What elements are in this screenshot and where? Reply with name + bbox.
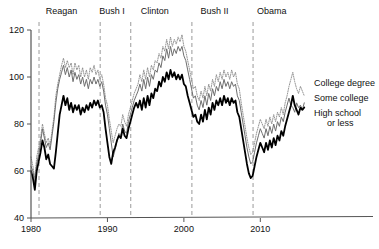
- line-chart: 4060801001201980199020002010 Reagan Bush…: [0, 0, 379, 249]
- x-tick-label-1990: 1990: [97, 224, 117, 234]
- chart-container: 4060801001201980199020002010 Reagan Bush…: [0, 0, 379, 249]
- y-tick-label-100: 100: [9, 72, 24, 82]
- y-tick-label-40: 40: [14, 213, 24, 223]
- era-label-bush-ii: Bush II: [200, 6, 228, 16]
- legend-label-some-college: Some college: [314, 93, 369, 103]
- x-tick-label-1980: 1980: [21, 224, 41, 234]
- era-label-obama: Obama: [257, 6, 287, 16]
- y-tick-label-80: 80: [14, 119, 24, 129]
- era-label-bush-i: Bush I: [99, 6, 125, 16]
- x-tick-label-2010: 2010: [250, 224, 270, 234]
- legend-label-high-school-cont: or less: [327, 118, 354, 128]
- legend-label-college-degree: College degree: [314, 78, 375, 88]
- chart-background: [0, 0, 379, 249]
- era-label-reagan: Reagan: [46, 6, 78, 16]
- era-label-clinton: Clinton: [141, 6, 169, 16]
- y-tick-label-60: 60: [14, 166, 24, 176]
- y-tick-label-120: 120: [9, 25, 24, 35]
- x-tick-label-2000: 2000: [174, 224, 194, 234]
- legend-label-high-school: High school: [314, 108, 361, 118]
